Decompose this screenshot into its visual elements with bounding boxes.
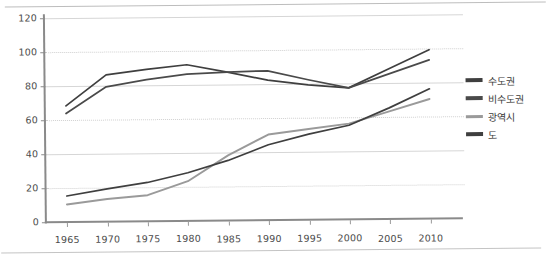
chart-page: 020406080100120 196519701975198019851990…: [0, 0, 547, 258]
legend-line-icon: [466, 132, 483, 136]
legend-item-label: 광역시: [488, 108, 515, 123]
series-line: [66, 60, 430, 114]
series-line: [66, 89, 431, 196]
legend-item-label: 도: [488, 126, 497, 141]
legend-line-icon: [466, 96, 483, 100]
legend-line-icon: [466, 114, 483, 117]
scanned-figure: 020406080100120 196519701975198019851990…: [0, 0, 547, 258]
legend-item[interactable]: 도: [466, 125, 546, 142]
legend-item-label: 비수도권: [488, 90, 525, 105]
legend-item[interactable]: 비수도권: [466, 89, 546, 106]
series-line: [65, 50, 429, 106]
legend-item-label: 수도권: [487, 72, 514, 87]
legend-line-icon: [466, 78, 483, 82]
chart-legend: 수도권비수도권광역시도: [465, 71, 546, 144]
legend-item[interactable]: 수도권: [465, 71, 545, 88]
legend-item[interactable]: 광역시: [466, 107, 546, 124]
data-lines: [0, 0, 547, 258]
